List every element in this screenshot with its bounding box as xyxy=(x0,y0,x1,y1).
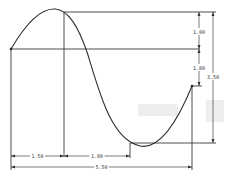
start-point[interactable] xyxy=(10,48,13,51)
arrow-right-icon xyxy=(126,155,130,158)
dimension-label: 3.50 xyxy=(207,74,219,80)
dimension-vertical-lower[interactable]: 1.00 xyxy=(193,49,205,86)
arrow-up-icon xyxy=(198,12,201,16)
ghost-artifact xyxy=(138,104,178,116)
dimension-label: 1.00 xyxy=(193,29,205,35)
arrow-down-icon xyxy=(198,45,201,49)
dimension-vertical-total[interactable]: 3.50 xyxy=(207,12,220,143)
arrow-right-icon xyxy=(188,166,192,169)
arrow-left-icon xyxy=(64,155,68,158)
sine-spline-curve[interactable] xyxy=(11,9,192,146)
dimension-horizontal-second[interactable]: 1.80 xyxy=(64,153,130,160)
arrow-left-icon xyxy=(11,155,15,158)
arrow-down-icon xyxy=(212,139,215,143)
arrow-left-icon xyxy=(11,166,15,169)
arrow-up-icon xyxy=(212,12,215,16)
end-point[interactable] xyxy=(191,85,194,88)
dimension-label: 1.50 xyxy=(31,153,43,159)
dimension-label: 1.80 xyxy=(91,153,103,159)
arrow-down-icon xyxy=(198,82,201,86)
sketch-canvas: 1.00 1.00 3.50 1.50 1.80 5.50 xyxy=(0,0,231,182)
dimension-label: 5.50 xyxy=(95,164,107,170)
ghost-artifact xyxy=(206,100,224,122)
arrow-right-icon xyxy=(60,155,64,158)
dimension-horizontal-total[interactable]: 5.50 xyxy=(11,164,192,171)
dimension-horizontal-first[interactable]: 1.50 xyxy=(11,153,64,160)
dimension-label: 1.00 xyxy=(193,65,205,71)
arrow-up-icon xyxy=(198,49,201,53)
dimension-vertical-upper[interactable]: 1.00 xyxy=(193,12,205,49)
